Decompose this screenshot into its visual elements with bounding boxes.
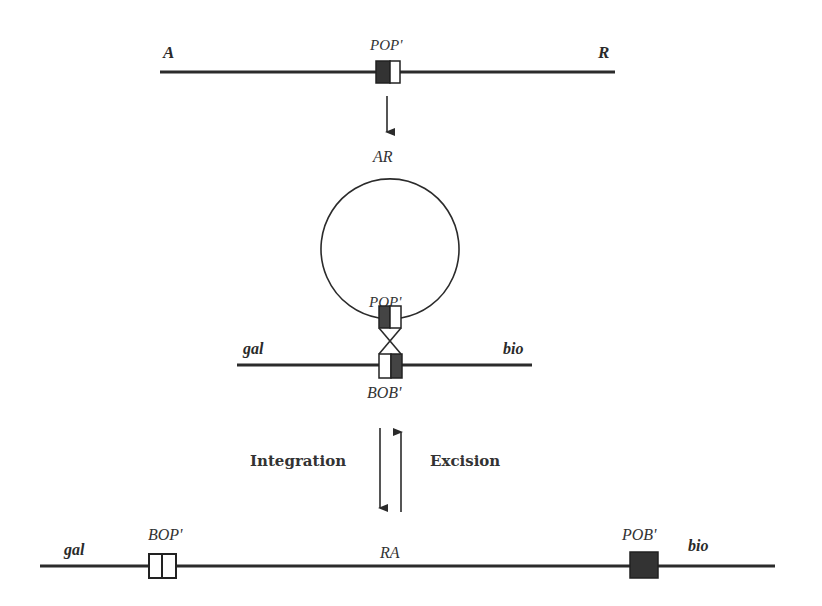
integration-label: Integration	[250, 452, 346, 470]
pob-site-label: POB'	[621, 526, 657, 543]
reaction-arrows: Integration Excision	[250, 428, 500, 512]
prophage-ra-label: RA	[379, 544, 400, 561]
bob-site-dark-half	[391, 354, 402, 378]
integration-diagram: A R POP' AR POP' gal bio BOB' Integratio…	[0, 0, 822, 606]
circle-pop-dark-half	[379, 306, 390, 328]
circle-pop-light-half	[390, 306, 401, 328]
excision-label: Excision	[430, 452, 500, 470]
bio-label: bio	[503, 340, 523, 357]
bacterial-chromosome: gal bio BOB'	[237, 340, 532, 401]
pop-site-light-half	[390, 61, 400, 83]
bop-site-right-half	[162, 554, 176, 578]
pop-site-dark-half	[376, 61, 390, 83]
bop-site-label: BOP'	[148, 526, 183, 543]
bop-site-left-half	[149, 554, 162, 578]
gene-r-label: R	[597, 43, 609, 62]
circular-phage: AR POP'	[321, 148, 459, 328]
circle-ar-label: AR	[372, 148, 393, 165]
prophage-chromosome: gal bio RA BOP' POB'	[40, 526, 775, 578]
prophage-gal-label: gal	[63, 541, 85, 559]
pob-site	[630, 552, 658, 578]
prophage-bio-label: bio	[688, 537, 708, 554]
gene-a-label: A	[162, 43, 174, 62]
bob-site-light-half	[379, 354, 391, 378]
pop-site-label: POP'	[369, 37, 403, 53]
linear-phage: A R POP'	[160, 37, 615, 83]
gal-label: gal	[242, 340, 264, 358]
crossover-icon	[379, 328, 401, 354]
bob-site-label: BOB'	[367, 384, 402, 401]
